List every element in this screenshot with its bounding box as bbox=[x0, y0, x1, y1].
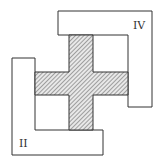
hatched-cross bbox=[35, 35, 128, 130]
diagram-canvas: IV II bbox=[0, 0, 162, 164]
label-iv: IV bbox=[133, 19, 146, 32]
label-ii: II bbox=[19, 137, 28, 150]
